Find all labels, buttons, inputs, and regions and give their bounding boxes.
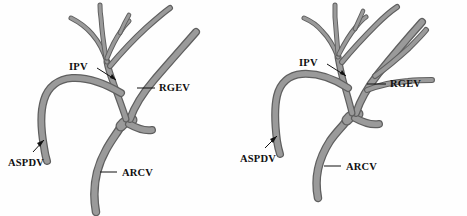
ipv-branch-1-outline xyxy=(304,18,338,57)
label-ipv: IPV xyxy=(69,61,88,72)
label-aspdv: ASPDV xyxy=(8,157,44,168)
aspdv-outline xyxy=(275,74,348,154)
right-panel: IPV RGEV ASPDV ARCV xyxy=(234,0,467,216)
vascular-anatomy-figure: IPV RGEV ASPDV ARCV xyxy=(0,0,467,216)
label-aspdv: ASPDV xyxy=(240,153,276,164)
label-arcv: ARCV xyxy=(346,161,377,172)
label-ipv: IPV xyxy=(299,57,318,68)
left-panel: IPV RGEV ASPDV ARCV xyxy=(0,0,233,216)
label-rgev: RGEV xyxy=(159,82,190,93)
label-rgev: RGEV xyxy=(390,78,421,89)
label-arcv: ARCV xyxy=(122,167,153,178)
vessel-tree-left xyxy=(41,5,196,212)
